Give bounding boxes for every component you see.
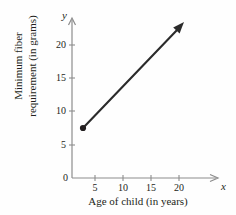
x-tick-label-5: 5: [85, 183, 105, 193]
y-tick-label-10: 10: [48, 106, 66, 116]
y-tick-label-5: 5: [48, 140, 66, 150]
y-axis-title: Minimum fiber requirement (in grams): [11, 0, 39, 146]
origin-tick-label: 0: [54, 173, 68, 183]
x-axis-title: Age of child (in years): [58, 195, 218, 208]
x-tick-label-20: 20: [169, 183, 189, 193]
fiber-requirement-line-chart: 0 5 10 15 20 5 10 15 20 x y Age of child…: [0, 0, 236, 215]
y-tick-label-15: 15: [48, 73, 66, 83]
x-tick-label-10: 10: [113, 183, 133, 193]
y-axis-title-line-1: Minimum fiber: [11, 0, 25, 146]
x-tick-label-15: 15: [141, 183, 161, 193]
y-axis-variable-label: y: [62, 10, 67, 21]
y-axis-title-line-2: requirement (in grams): [25, 0, 39, 146]
x-axis-variable-label: x: [221, 181, 226, 192]
data-ray-line: [83, 29, 178, 128]
y-tick-label-20: 20: [48, 40, 66, 50]
data-point-start-marker: [80, 125, 86, 131]
